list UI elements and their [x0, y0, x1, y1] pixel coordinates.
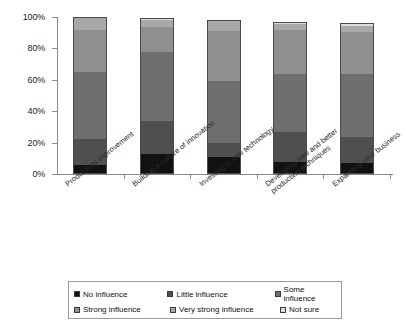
legend-swatch-strong-influence [74, 307, 80, 313]
y-axis-tick: 60% [52, 80, 57, 81]
legend-row: No influence Little influence Some influ… [74, 285, 337, 303]
legend-label: Little influence [176, 290, 227, 299]
x-axis-tick [323, 174, 324, 179]
legend-item-no-influence: No influence [74, 285, 167, 303]
legend-label: Very strong influence [179, 305, 254, 314]
legend-swatch-very-strong-influence [170, 307, 176, 313]
bar-segment [207, 81, 241, 143]
legend-swatch-little-influence [167, 291, 173, 297]
legend-item-very-strong-influence: Very strong influence [170, 305, 280, 314]
bar-segment [140, 20, 174, 27]
bar-segment [273, 74, 307, 133]
bar-segment [273, 30, 307, 73]
y-axis-tick: 20% [52, 143, 57, 144]
bar-segment [340, 32, 374, 74]
legend-label: Strong influence [83, 305, 141, 314]
y-axis-tick: 40% [52, 111, 57, 112]
legend-row: Strong influence Very strong influence N… [74, 305, 337, 314]
x-axis-tick [124, 174, 125, 179]
stacked-bar-chart: 0%20%40%60%80%100% Productivity improvem… [0, 0, 406, 327]
bar-segment [140, 121, 174, 154]
bar-segment [73, 30, 107, 72]
bar-segment [140, 27, 174, 52]
chart-legend: No influence Little influence Some influ… [68, 281, 342, 319]
y-axis-tick-label: 40% [28, 106, 45, 116]
legend-label: Some influence [284, 285, 337, 303]
bar-segment [73, 17, 107, 30]
legend-label: Not sure [289, 305, 319, 314]
legend-swatch-no-influence [74, 291, 80, 297]
bar-segment [140, 52, 174, 121]
x-axis-tick [257, 174, 258, 179]
bar-segment [207, 31, 241, 80]
y-axis-tick-label: 0% [32, 169, 45, 179]
x-axis-tick [390, 174, 391, 179]
legend-item-some-influence: Some influence [275, 285, 337, 303]
y-axis-tick-label: 100% [23, 12, 45, 22]
y-axis-tick: 100% [52, 17, 57, 18]
legend-item-little-influence: Little influence [167, 285, 274, 303]
y-axis-tick: 80% [52, 48, 57, 49]
y-axis-tick-label: 60% [28, 75, 45, 85]
legend-swatch-not-sure [280, 307, 286, 313]
bar-segment [73, 72, 107, 139]
y-axis-tick: 0% [52, 174, 57, 175]
x-axis-tick [190, 174, 191, 179]
bar-segment [207, 21, 241, 31]
y-axis-tick-label: 80% [28, 43, 45, 53]
legend-swatch-some-influence [275, 291, 281, 297]
bar-segment [340, 74, 374, 138]
legend-item-strong-influence: Strong influence [74, 305, 170, 314]
legend-item-not-sure: Not sure [280, 305, 319, 314]
y-axis-tick-label: 20% [28, 138, 45, 148]
legend-label: No influence [83, 290, 127, 299]
